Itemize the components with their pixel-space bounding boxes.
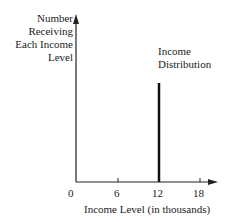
x-axis-label: Income Level (in thousands) <box>84 203 210 216</box>
annotation-line-1: Income <box>158 45 191 58</box>
x-axis-arrow-icon <box>208 179 218 185</box>
y-axis-label-line-1: Number <box>37 12 73 25</box>
y-axis-arrow-icon <box>73 14 79 24</box>
y-axis-label-line-3: Each Income <box>15 38 73 51</box>
x-tick-label-12: 12 <box>152 187 163 200</box>
annotation-line-2: Distribution <box>158 58 211 71</box>
y-axis-label-line-4: Level <box>48 51 73 64</box>
x-tick-label-6: 6 <box>114 187 120 200</box>
x-tick-label-0: 0 <box>68 187 74 200</box>
y-axis-label-line-2: Receiving <box>28 25 73 38</box>
x-tick-label-18: 18 <box>193 187 204 200</box>
